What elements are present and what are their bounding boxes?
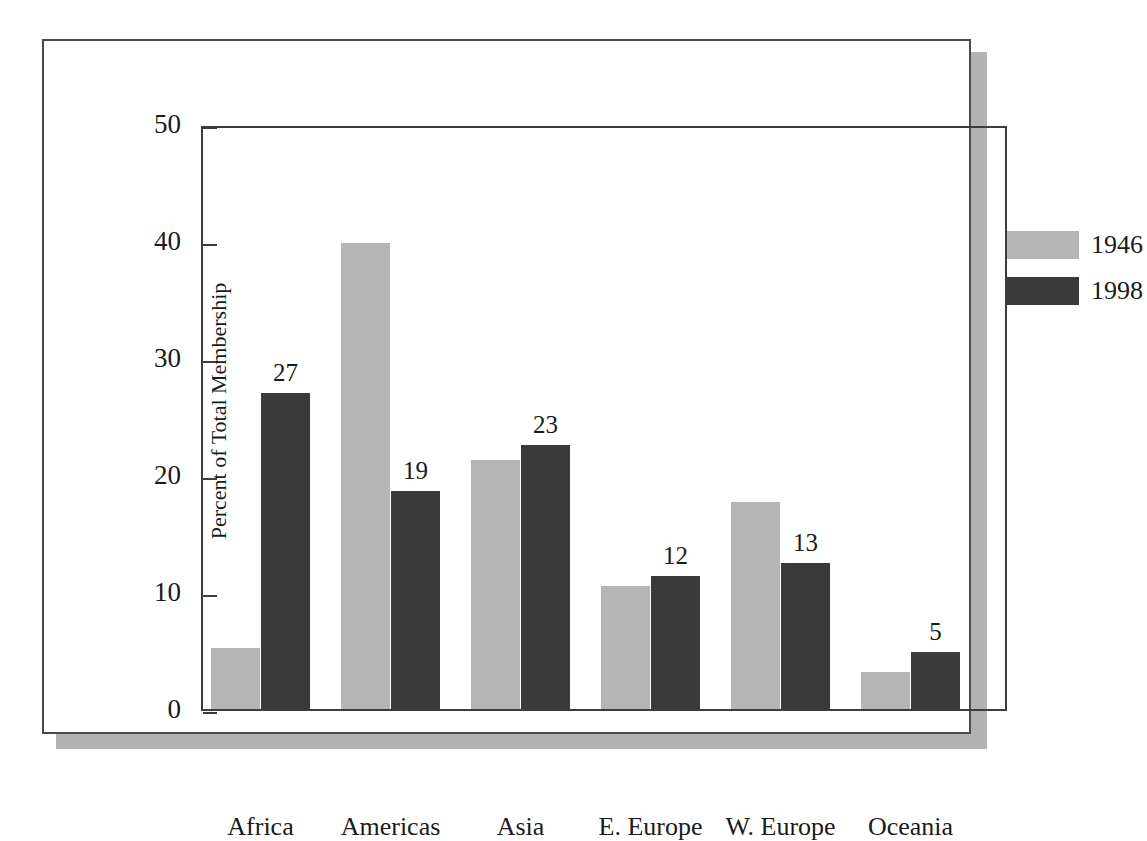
bar-group: 13 (731, 128, 830, 709)
bar-value-label: 5 (911, 619, 960, 644)
bar-1998-africa[interactable] (261, 393, 310, 709)
figure-frame: 01020304050 Percent of Total Membership … (42, 39, 971, 734)
bar-value-label: 12 (651, 543, 700, 568)
bar-group: 5 (861, 128, 960, 709)
y-axis-tick-label: 50 (111, 111, 181, 138)
bar-1946-asia[interactable] (471, 460, 520, 709)
bar-1946-americas[interactable] (341, 243, 390, 709)
bar-1946-africa[interactable] (211, 648, 260, 709)
y-axis-tick-label: 0 (111, 696, 181, 723)
bar-value-label: 23 (521, 412, 570, 437)
bar-group: 12 (601, 128, 700, 709)
chart-legend: 19461998 (1007, 226, 1147, 318)
bar-1998-asia[interactable] (521, 445, 570, 709)
bar-group: 27 (211, 128, 310, 709)
legend-label: 1946 (1091, 232, 1143, 258)
plot-area: 01020304050 Percent of Total Membership … (201, 126, 1007, 711)
x-axis-category-label: Oceania (836, 814, 985, 840)
legend-label: 1998 (1091, 278, 1143, 304)
bar-1998-americas[interactable] (391, 491, 440, 709)
bar-1998-eeurope[interactable] (651, 576, 700, 709)
bar-group: 19 (341, 128, 440, 709)
bar-value-label: 27 (261, 360, 310, 385)
x-axis-category-label: Africa (186, 814, 335, 840)
bar-value-label: 13 (781, 530, 830, 555)
bar-group: 23 (471, 128, 570, 709)
y-axis-tick-label: 30 (111, 345, 181, 372)
legend-swatch-icon (1007, 231, 1079, 259)
bar-1946-eeurope[interactable] (601, 586, 650, 709)
bar-1946-weurope[interactable] (731, 502, 780, 709)
y-axis-tick-label: 20 (111, 462, 181, 489)
bar-value-label: 19 (391, 458, 440, 483)
bar-1946-oceania[interactable] (861, 672, 910, 709)
x-axis-category-label: Americas (316, 814, 465, 840)
legend-swatch-icon (1007, 277, 1079, 305)
y-axis-tick (203, 712, 217, 714)
x-axis-category-label: E. Europe (576, 814, 725, 840)
bars-layer: 27192312135 (203, 128, 1005, 709)
legend-item[interactable]: 1998 (1007, 272, 1147, 310)
x-axis-category-label: Asia (446, 814, 595, 840)
y-axis-tick-label: 40 (111, 228, 181, 255)
legend-item[interactable]: 1946 (1007, 226, 1147, 264)
y-axis-tick-label: 10 (111, 579, 181, 606)
bar-1998-oceania[interactable] (911, 652, 960, 709)
x-axis-category-label: W. Europe (706, 814, 855, 840)
bar-1998-weurope[interactable] (781, 563, 830, 709)
